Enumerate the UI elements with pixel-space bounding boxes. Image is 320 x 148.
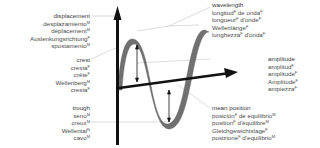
term-english: wavelength [212, 1, 265, 9]
term-french: longueurF d'ondeF [212, 16, 265, 24]
term-italian: spostamentoM [30, 42, 90, 50]
term-french: creuxM [62, 119, 90, 127]
leader-wavelength-tail [169, 7, 210, 26]
label-trough: trough senoM creuxM WellentalN cavoM [62, 104, 90, 142]
label-mean-position: mean position posiciónF de equilibrioM p… [212, 104, 276, 142]
term-italian: ampiezzaF [268, 85, 298, 93]
label-displacement: displacement desplazamientoM déplacement… [30, 12, 90, 50]
term-english: mean position [212, 104, 276, 112]
label-wavelength: wavelength longitudF de ondaF longueurF … [212, 1, 265, 39]
vertical-arrowhead-icon [114, 6, 122, 20]
leader-crest [91, 47, 118, 59]
term-italian: lunghezzaF d'ondaF [212, 31, 265, 39]
term-french: amplitudeF [268, 70, 298, 78]
label-crest: crest crestaF crêteF WellenbergM crestaF [55, 56, 90, 94]
term-italian: posizioneF d'equilibrioM [212, 134, 276, 142]
wave-ribbon [118, 30, 209, 129]
leader-wavelength [137, 25, 199, 31]
term-french: déplacementM [30, 27, 90, 35]
term-italian: cavoM [62, 134, 90, 142]
horizontal-axis [119, 73, 230, 88]
term-english: crest [55, 56, 90, 64]
label-amplitude: amplitude amplitudF amplitudeF Amplitude… [268, 55, 298, 93]
term-english: displacement [30, 12, 90, 20]
term-italian: crestaF [55, 86, 90, 94]
term-french: crêteF [55, 71, 90, 79]
horizontal-arrowhead-icon [224, 68, 238, 78]
leader-amplitude [137, 59, 210, 63]
